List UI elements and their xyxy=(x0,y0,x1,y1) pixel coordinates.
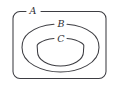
set-b-label: B xyxy=(57,18,65,29)
set-c-label: C xyxy=(57,33,65,44)
set-b-outline xyxy=(22,24,99,72)
set-c-group: C xyxy=(37,33,84,66)
set-b-group: B xyxy=(22,18,99,72)
nested-set-diagram: A B C xyxy=(0,0,115,92)
set-a-label: A xyxy=(29,5,37,16)
venn-diagram-container: A B C xyxy=(0,0,115,92)
